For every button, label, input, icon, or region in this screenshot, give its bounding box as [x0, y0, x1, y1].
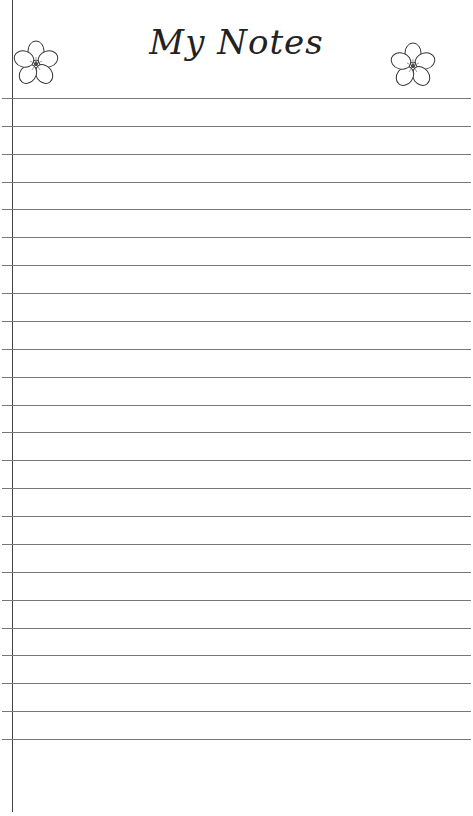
- ruled-line: [2, 460, 471, 461]
- ruled-line: [2, 683, 471, 684]
- ruled-line: [2, 655, 471, 656]
- ruled-line: [2, 182, 471, 183]
- ruled-line: [2, 600, 471, 601]
- ruled-line: [2, 711, 471, 712]
- notes-page: My Notes: [0, 0, 473, 816]
- ruled-line: [2, 209, 471, 210]
- ruled-line: [2, 349, 471, 350]
- ruled-line: [2, 432, 471, 433]
- ruled-line: [2, 544, 471, 545]
- ruled-line: [2, 98, 471, 99]
- ruled-line: [2, 293, 471, 294]
- ruled-line: [2, 516, 471, 517]
- margin-line: [12, 0, 13, 812]
- ruled-line: [2, 154, 471, 155]
- ruled-line: [2, 321, 471, 322]
- flower-icon: [12, 40, 60, 88]
- ruled-line: [2, 126, 471, 127]
- ruled-line: [2, 739, 471, 740]
- flower-icon: [389, 42, 437, 90]
- ruled-line: [2, 265, 471, 266]
- ruled-line: [2, 377, 471, 378]
- ruled-line: [2, 405, 471, 406]
- ruled-line: [2, 628, 471, 629]
- ruled-line: [2, 237, 471, 238]
- ruled-line: [2, 488, 471, 489]
- ruled-line: [2, 572, 471, 573]
